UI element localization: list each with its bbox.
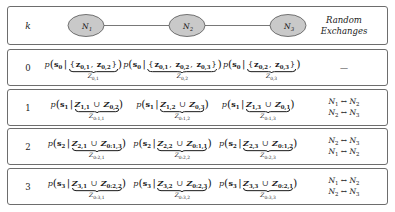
underbrace-content: {z0,1, z0,2, z0,3} [147,59,217,69]
underbrace-group: Z3,3 ∪ Z0:2,1Z0:3,3 [243,178,293,188]
underbrace-group: {z0,2, z0,3}Z0,3 [247,59,296,69]
conditional-probability-formula: p(s1|Z1,3 ∪ Z0,1Z0:1,3) [222,98,295,117]
underbrace-content: Z3,1 ∪ Z0:2,2 [72,178,122,188]
underbrace-group: Z3,1 ∪ Z0:2,2Z0:3,1 [72,178,122,188]
table-row: 1 p(s1|Z1,1 ∪ Z0,2Z0:1,1)p(s1|Z1,2 ∪ Z0,… [7,89,388,126]
exchange-line: N2 ↔ N3 [328,187,359,198]
underbrace-label: Z0:1,2 [175,112,190,119]
underbrace-content: Z1,2 ∪ Z0,3 [160,99,204,109]
exchange-line: N1 ↔ N2 [328,147,359,158]
underbrace-group: Z1,2 ∪ Z0,3Z0:1,2 [160,99,204,109]
header-row: k N 1 N 2 N 3 [7,6,388,45]
exchange-table-figure: k N 1 N 2 N 3 [0,0,395,212]
underbrace-label: Z0:3,2 [175,191,190,198]
underbrace-content: Z3,2 ∪ Z0:2,3 [157,178,207,188]
underbrace-group: Z2,1 ∪ Z0:1,3Z0:2,1 [72,138,122,148]
table-row: 3 p(s3|Z3,1 ∪ Z0:2,2Z0:3,1)p(s3|Z3,2 ∪ Z… [7,168,388,205]
graph-node-n1: N 1 [68,15,104,37]
exchanges-cell: N2 ↔ N3N1 ↔ N2 [305,129,383,164]
underbrace-content: Z3,3 ∪ Z0:2,1 [243,178,293,188]
graph-node-n2-label: N [182,22,190,31]
conditional-probability-formula: p(s0|{z0,2, z0,3}Z0,3) [223,58,301,77]
row-index-label: 2 [8,129,48,164]
exchange-line: N2 ↔ N3 [328,108,359,119]
graph-node-n3-label: N [283,22,291,31]
underbrace-label: Z0:2,1 [89,151,104,158]
k-column-header: k [8,7,48,44]
underbrace-content: Z1,1 ∪ Z0,2 [75,99,119,109]
graph-node-n3-sub: 3 [291,26,294,32]
row-index-label: 1 [8,90,48,125]
underbrace-label: Z0:3,3 [260,191,275,198]
underbrace-group: {z0,1, z0,2, z0,3}Z0,2 [147,59,217,69]
graph-node-n1-sub: 1 [89,26,92,32]
underbrace-label: Z0,1 [88,72,99,79]
random-exchanges-header: Random Exchanges [305,7,383,44]
exchange-line: N1 ↔ N2 [328,97,359,108]
conditional-probability-formula: p(s3|Z3,3 ∪ Z0:2,1Z0:3,3) [219,177,297,196]
underbrace-label: Z0:2,3 [260,151,275,158]
conditional-probability-formula: p(s3|Z3,1 ∪ Z0:2,2Z0:3,1) [48,177,126,196]
exchange-line: — [340,62,348,74]
underbrace-label: Z0:2,2 [175,151,190,158]
underbrace-content: Z2,1 ∪ Z0:1,3 [72,138,122,148]
exchanges-cell: — [305,50,383,85]
underbrace-label: Z0:1,1 [89,112,104,119]
conditional-probability-formula: p(s2|Z2,1 ∪ Z0:1,3Z0:2,1) [48,137,126,156]
underbrace-content: Z2,3 ∪ Z0:1,2 [243,138,293,148]
underbrace-label: Z0:1,3 [260,112,275,119]
formula-group: p(s3|Z3,1 ∪ Z0:2,2Z0:3,1)p(s3|Z3,2 ∪ Z0:… [44,169,301,204]
graph-node-n1-label: N [81,22,89,31]
formula-group: p(s0|{z0,1, z0,2}Z0,1)p(s0|{z0,1, z0,2, … [44,50,301,85]
conditional-probability-formula: p(s0|{z0,1, z0,2, z0,3}Z0,2) [123,58,222,77]
random-exchanges-header-line2: Exchanges [321,26,368,37]
exchange-line: N2 ↔ N3 [328,136,359,147]
underbrace-group: Z2,3 ∪ Z0:1,2Z0:2,3 [243,138,293,148]
underbrace-group: Z1,3 ∪ Z0,1Z0:1,3 [246,99,290,109]
row-index-label: 3 [8,169,48,204]
formula-group: p(s2|Z2,1 ∪ Z0:1,3Z0:2,1)p(s2|Z2,2 ∪ Z0:… [44,129,301,164]
underbrace-content: {z0,1, z0,2} [69,59,118,69]
underbrace-content: Z1,3 ∪ Z0,1 [246,99,290,109]
table-row: 0 p(s0|{z0,1, z0,2}Z0,1)p(s0|{z0,1, z0,2… [7,49,388,86]
exchanges-cell: N1 ↔ N2N2 ↔ N3 [305,90,383,125]
row-index-label: 0 [8,50,48,85]
exchange-line: N1 ↔ N2 [328,176,359,187]
conditional-probability-formula: p(s3|Z3,2 ∪ Z0:2,3Z0:3,2) [133,177,211,196]
conditional-probability-formula: p(s1|Z1,1 ∪ Z0,2Z0:1,1) [51,98,124,117]
underbrace-content: Z2,2 ∪ Z0:1,1 [157,138,207,148]
conditional-probability-formula: p(s2|Z2,3 ∪ Z0:1,2Z0:2,3) [219,137,297,156]
underbrace-content: {z0,2, z0,3} [247,59,296,69]
conditional-probability-formula: p(s0|{z0,1, z0,2}Z0,1) [45,58,123,77]
graph-node-n2-sub: 2 [189,26,193,32]
underbrace-group: {z0,1, z0,2}Z0,1 [69,59,118,69]
formula-group: p(s1|Z1,1 ∪ Z0,2Z0:1,1)p(s1|Z1,2 ∪ Z0,3Z… [44,90,301,125]
graph-node-n3: N 3 [270,15,306,37]
conditional-probability-formula: p(s2|Z2,2 ∪ Z0:1,1Z0:2,2) [133,137,211,156]
table-row: 2 p(s2|Z2,1 ∪ Z0:1,3Z0:2,1)p(s2|Z2,2 ∪ Z… [7,128,388,165]
node-graph: N 1 N 2 N 3 [48,7,310,44]
random-exchanges-header-line1: Random [326,15,362,26]
graph-node-n2: N 2 [169,15,205,37]
underbrace-label: Z0,2 [177,72,188,79]
exchanges-cell: N1 ↔ N2N2 ↔ N3 [305,169,383,204]
underbrace-label: Z0,3 [266,72,277,79]
conditional-probability-formula: p(s1|Z1,2 ∪ Z0,3Z0:1,2) [136,98,209,117]
underbrace-group: Z3,2 ∪ Z0:2,3Z0:3,2 [157,178,207,188]
underbrace-group: Z2,2 ∪ Z0:1,1Z0:2,2 [157,138,207,148]
underbrace-group: Z1,1 ∪ Z0,2Z0:1,1 [75,99,119,109]
underbrace-label: Z0:3,1 [89,191,104,198]
